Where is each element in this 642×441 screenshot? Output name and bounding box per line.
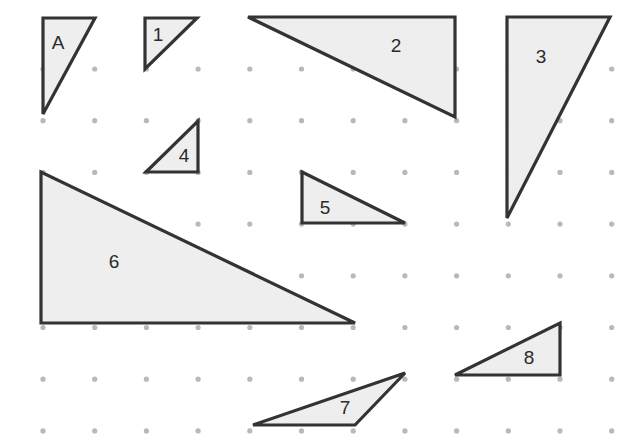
- grid-dot: [299, 325, 304, 330]
- grid-dot: [506, 222, 511, 227]
- grid-dot: [144, 377, 149, 382]
- grid-dot: [609, 273, 614, 278]
- grid-dot: [454, 273, 459, 278]
- grid-dot: [557, 377, 562, 382]
- grid-dot: [196, 377, 201, 382]
- shape-group-4: 4: [146, 121, 198, 172]
- triangle-shape-5: [302, 172, 405, 223]
- grid-dot: [299, 428, 304, 433]
- triangle-label-3: 3: [536, 46, 547, 67]
- grid-dot: [609, 428, 614, 433]
- grid-dot: [40, 325, 45, 330]
- grid-dot: [299, 118, 304, 123]
- shape-group-3: 3: [507, 17, 610, 218]
- grid-dot: [609, 377, 614, 382]
- grid-dot: [196, 66, 201, 71]
- grid-dot: [247, 170, 252, 175]
- grid-dot: [247, 428, 252, 433]
- grid-dot: [557, 170, 562, 175]
- grid-dot: [247, 377, 252, 382]
- grid-dot: [454, 170, 459, 175]
- grid-dot: [144, 428, 149, 433]
- grid-dot: [351, 170, 356, 175]
- shape-layer: A12345678: [41, 17, 610, 425]
- shape-group-1: 1: [145, 18, 197, 69]
- grid-dot: [609, 325, 614, 330]
- grid-dot: [92, 428, 97, 433]
- grid-dot: [506, 325, 511, 330]
- grid-dot: [557, 273, 562, 278]
- grid-dot: [351, 273, 356, 278]
- grid-dot: [40, 118, 45, 123]
- grid-dot: [92, 377, 97, 382]
- triangle-shape-4: [146, 121, 198, 172]
- grid-dot: [299, 377, 304, 382]
- grid-dot: [609, 66, 614, 71]
- grid-dot: [454, 377, 459, 382]
- grid-dot: [557, 428, 562, 433]
- triangle-label-7: 7: [340, 397, 351, 418]
- triangle-shape-7: [253, 373, 405, 425]
- triangle-shape-2: [248, 17, 455, 117]
- triangles-figure-svg: A12345678: [0, 0, 642, 441]
- grid-dot: [402, 118, 407, 123]
- grid-dot: [351, 325, 356, 330]
- grid-dot: [92, 118, 97, 123]
- grid-dot: [247, 118, 252, 123]
- grid-dot: [92, 325, 97, 330]
- grid-dot: [454, 325, 459, 330]
- grid-dot: [506, 273, 511, 278]
- triangles-figure-canvas: A12345678: [0, 0, 642, 441]
- triangle-label-8: 8: [524, 347, 535, 368]
- grid-dot: [299, 273, 304, 278]
- grid-dot: [92, 66, 97, 71]
- grid-dot: [506, 428, 511, 433]
- grid-dot: [40, 377, 45, 382]
- grid-dot: [247, 325, 252, 330]
- grid-dot: [506, 377, 511, 382]
- grid-dot: [144, 118, 149, 123]
- grid-dot: [609, 222, 614, 227]
- grid-dot: [454, 222, 459, 227]
- shape-group-7: 7: [253, 373, 405, 425]
- shape-group-5: 5: [302, 172, 405, 223]
- grid-dot: [351, 377, 356, 382]
- grid-dot: [247, 66, 252, 71]
- grid-dot: [196, 325, 201, 330]
- triangle-label-a: A: [52, 32, 65, 53]
- grid-dot: [40, 428, 45, 433]
- grid-dot: [402, 428, 407, 433]
- triangle-shape-8: [455, 323, 560, 375]
- grid-dot: [402, 325, 407, 330]
- grid-dot: [402, 273, 407, 278]
- grid-dot: [196, 428, 201, 433]
- triangle-label-2: 2: [391, 35, 402, 56]
- grid-dot: [402, 170, 407, 175]
- grid-dot: [299, 66, 304, 71]
- shape-group-2: 2: [248, 17, 455, 117]
- triangle-label-6: 6: [109, 251, 120, 272]
- grid-dot: [557, 222, 562, 227]
- grid-dot: [402, 377, 407, 382]
- triangle-label-1: 1: [153, 24, 164, 45]
- shape-group-8: 8: [455, 323, 560, 375]
- grid-dot: [196, 222, 201, 227]
- grid-dot: [609, 170, 614, 175]
- triangle-shape-3: [507, 17, 610, 218]
- triangle-label-5: 5: [320, 197, 331, 218]
- grid-dot: [351, 118, 356, 123]
- grid-dot: [144, 325, 149, 330]
- shape-group-a: A: [43, 18, 95, 114]
- grid-dot: [609, 118, 614, 123]
- grid-dot: [247, 222, 252, 227]
- grid-dot: [454, 428, 459, 433]
- triangle-label-4: 4: [179, 145, 190, 166]
- grid-dot: [351, 428, 356, 433]
- grid-dot: [92, 170, 97, 175]
